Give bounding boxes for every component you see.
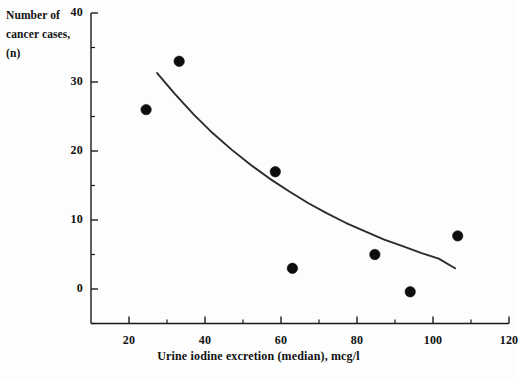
data-point-marker <box>174 56 184 66</box>
data-point-marker <box>405 287 415 297</box>
x-tick-label: 60 <box>264 333 298 348</box>
data-point-marker <box>287 263 297 273</box>
x-tick-label: 20 <box>112 333 146 348</box>
data-point-marker <box>141 104 151 114</box>
axis-ticks <box>91 13 509 324</box>
x-tick-label: 80 <box>340 333 374 348</box>
x-tick-label: 40 <box>188 333 222 348</box>
axes <box>91 13 509 324</box>
data-points <box>141 56 463 297</box>
y-tick-label: 40 <box>55 5 83 20</box>
y-tick-label: 20 <box>55 143 83 158</box>
trend-line <box>157 73 455 268</box>
data-point-marker <box>270 167 280 177</box>
y-tick-label: 0 <box>55 281 83 296</box>
data-point-marker <box>370 249 380 259</box>
y-tick-label: 30 <box>55 74 83 89</box>
y-tick-label: 10 <box>55 212 83 227</box>
x-tick-label: 100 <box>416 333 450 348</box>
x-tick-label: 120 <box>492 333 523 348</box>
x-axis-label: Urine iodine excretion (median), mcg/l <box>0 349 517 364</box>
data-point-marker <box>453 231 463 241</box>
trend-curve <box>157 73 455 268</box>
